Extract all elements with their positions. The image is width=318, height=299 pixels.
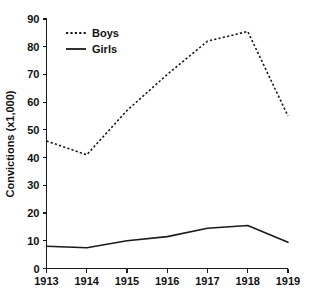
y-tick-label: 30 xyxy=(27,179,39,191)
y-axis-title: Convictions (x1,000) xyxy=(4,90,16,197)
y-tick-label: 60 xyxy=(27,96,39,108)
y-tick-label: 50 xyxy=(27,124,39,136)
x-tick-label: 1916 xyxy=(155,275,179,287)
x-tick-label: 1919 xyxy=(276,275,300,287)
legend-label-boys: Boys xyxy=(92,27,119,39)
x-tick-label: 1918 xyxy=(236,275,260,287)
y-tick-label: 70 xyxy=(27,68,39,80)
y-tick-label: 90 xyxy=(27,13,39,25)
chart-background xyxy=(0,0,318,299)
x-tick-label: 1915 xyxy=(115,275,139,287)
line-chart: 0102030405060708090 19131914191519161917… xyxy=(0,0,318,299)
legend-label-girls: Girls xyxy=(92,43,117,55)
x-tick-label: 1913 xyxy=(34,275,58,287)
y-tick-label: 0 xyxy=(33,263,39,275)
y-tick-label: 10 xyxy=(27,235,39,247)
y-tick-label: 40 xyxy=(27,152,39,164)
y-tick-label: 20 xyxy=(27,207,39,219)
x-tick-label: 1914 xyxy=(75,275,100,287)
x-tick-label: 1917 xyxy=(195,275,219,287)
chart-container: 0102030405060708090 19131914191519161917… xyxy=(0,0,318,299)
y-tick-label: 80 xyxy=(27,41,39,53)
